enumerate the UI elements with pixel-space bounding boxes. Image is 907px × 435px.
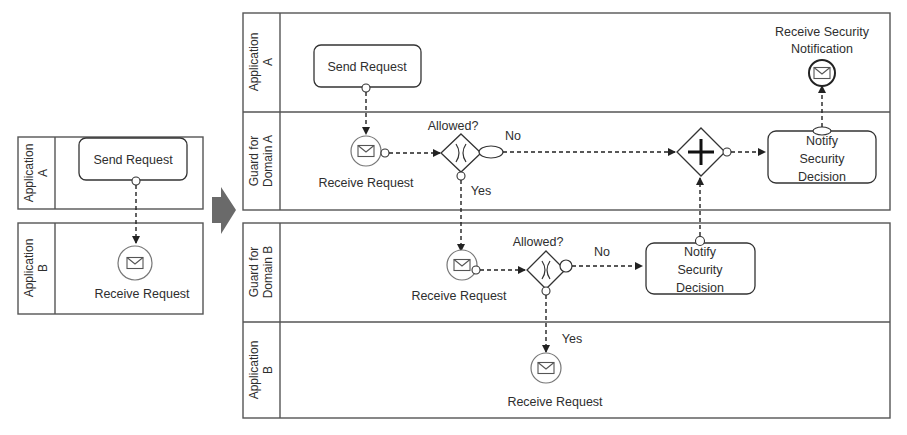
message-source-icon [132, 177, 140, 185]
envelope-icon [454, 260, 470, 271]
svg-text:Yes: Yes [562, 332, 582, 346]
lane-label: Domain B [261, 246, 275, 299]
after-pool-bottom: Guard for Domain B Application B [243, 223, 890, 418]
svg-text:Decision: Decision [676, 281, 724, 295]
message-source-icon [457, 172, 465, 180]
svg-text:Receive Request: Receive Request [507, 395, 603, 409]
before-task-send-request[interactable]: Send Request [79, 138, 187, 180]
lane-label: A [261, 58, 275, 66]
svg-text:No: No [505, 129, 521, 143]
svg-text:Notify: Notify [684, 245, 717, 259]
message-source-icon [542, 287, 550, 295]
lane-label: Domain A [261, 135, 275, 187]
svg-text:Receive Request: Receive Request [94, 287, 190, 301]
message-source-icon [813, 127, 831, 135]
svg-text:Receive Request: Receive Request [318, 176, 414, 190]
pool-label: A [36, 169, 50, 177]
lane-label: Guard for [247, 136, 261, 187]
gateway-label: Allowed? [428, 119, 479, 133]
svg-text:Security: Security [677, 263, 723, 277]
envelope-icon [358, 146, 374, 157]
svg-text:No: No [594, 245, 610, 259]
message-source-icon [381, 149, 389, 157]
svg-text:Notify: Notify [806, 134, 839, 148]
envelope-icon [814, 68, 830, 79]
gateway-label: Allowed? [513, 235, 564, 249]
right-arrow-icon [212, 187, 236, 234]
envelope-icon [538, 363, 554, 374]
message-source-icon [479, 146, 503, 158]
svg-text:Security: Security [799, 152, 845, 166]
pool-label: Application [22, 239, 36, 298]
svg-text:Yes: Yes [471, 184, 491, 198]
pool-label: Application [22, 144, 36, 203]
svg-text:Receive Request: Receive Request [411, 289, 507, 303]
message-source-icon [560, 260, 572, 272]
pool-label: B [36, 264, 50, 272]
lane-label: Application [247, 341, 261, 400]
guard-a-task-notify-security-decision[interactable]: Notify Security Decision [768, 131, 876, 184]
lane-label: Application [247, 33, 261, 92]
after-task-send-request[interactable]: Send Request [314, 45, 421, 87]
svg-text:Receive Security: Receive Security [775, 25, 870, 39]
svg-text:Decision: Decision [798, 170, 846, 184]
bpmn-diagram: Application A Application B Send Request… [0, 0, 907, 435]
guard-b-task-notify-security-decision[interactable]: Notify Security Decision [646, 243, 755, 295]
svg-text:Notification: Notification [791, 42, 853, 56]
svg-text:Send Request: Send Request [93, 153, 173, 167]
envelope-icon [127, 258, 143, 269]
message-source-icon [723, 148, 731, 156]
lane-label: Guard for [247, 247, 261, 298]
message-source-icon [696, 237, 705, 246]
svg-text:Send Request: Send Request [327, 60, 407, 74]
message-source-icon [472, 266, 480, 274]
lane-label: B [261, 366, 275, 374]
message-source-icon [362, 84, 370, 92]
